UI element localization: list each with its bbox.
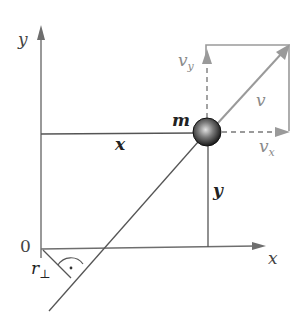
y-distance-label: y	[212, 180, 224, 200]
x-axis-label: x	[268, 248, 278, 268]
velocity-y-component	[202, 49, 212, 118]
origin-label: 0	[20, 236, 31, 256]
line-of-motion	[49, 142, 198, 311]
velocity-x-arrow-icon	[275, 127, 290, 137]
diagram-canvas: y x 0 m x y v vy vx r⊥	[0, 0, 305, 317]
velocity-y-label: vy	[178, 50, 195, 73]
right-angle-dot	[70, 267, 73, 270]
x-axis	[41, 242, 266, 250]
perpendicular-distance-label: r⊥	[31, 258, 50, 281]
y-axis-label: y	[17, 29, 28, 49]
y-axis	[37, 25, 45, 258]
x-distance-label: x	[114, 134, 126, 154]
point-mass	[193, 118, 221, 146]
velocity-vector	[217, 44, 290, 124]
mass-label: m	[172, 110, 190, 130]
velocity-x-label: vx	[259, 136, 276, 159]
velocity-x-component	[222, 127, 290, 137]
velocity-y-arrow-icon	[202, 49, 212, 64]
y-axis-arrow-icon	[37, 25, 45, 40]
right-angle-arc	[58, 258, 83, 265]
x-axis-arrow-icon	[252, 242, 266, 250]
velocity-label: v	[256, 90, 266, 110]
